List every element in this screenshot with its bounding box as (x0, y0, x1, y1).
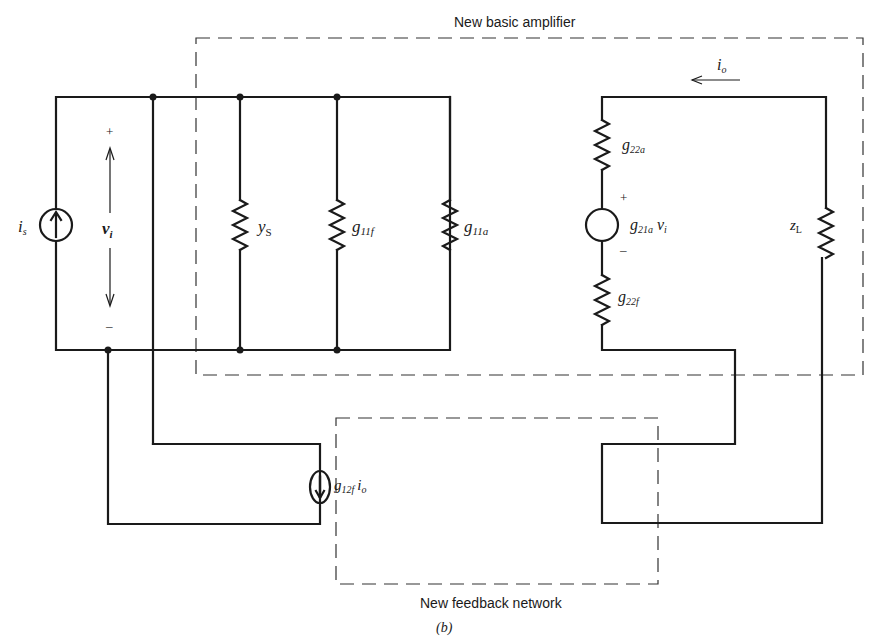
ys-label: yS (256, 217, 272, 238)
circuit-diagram: New basic amplifier New feedback network… (0, 0, 889, 642)
output-network (586, 97, 833, 523)
g21a-vi-label: g21avi (630, 216, 667, 235)
g11f-label: g11f (352, 217, 376, 237)
is-label: is (18, 217, 27, 237)
basic-amplifier-label: New basic amplifier (454, 14, 576, 30)
basic-amplifier-box (196, 38, 863, 375)
source-plus-sign: + (620, 190, 627, 205)
figure-caption: (b) (436, 620, 453, 636)
junction-dot (334, 347, 341, 354)
feedback-network-label: New feedback network (420, 595, 563, 611)
dependent-current-source-g12f-icon (310, 471, 330, 503)
junction-dot (150, 94, 157, 101)
vi-plus-sign: + (106, 124, 113, 139)
io-label: io (717, 56, 726, 75)
junction-dot (237, 347, 244, 354)
g22f-label: g22f (618, 288, 640, 307)
junction-dot (334, 94, 341, 101)
current-source-is-icon (40, 209, 72, 241)
g22a-label: g22a (622, 136, 645, 155)
g11a-label: g11a (464, 217, 489, 237)
input-network (56, 97, 457, 524)
source-minus-sign: – (619, 242, 627, 257)
current-io-arrow-icon (692, 76, 740, 84)
vi-minus-sign: – (105, 318, 113, 333)
vi-label: vi (102, 219, 114, 240)
zl-label: zL (789, 217, 802, 235)
g12f-io-label: g12fio (334, 477, 366, 495)
junction-dot (105, 347, 112, 354)
junction-dot (237, 94, 244, 101)
